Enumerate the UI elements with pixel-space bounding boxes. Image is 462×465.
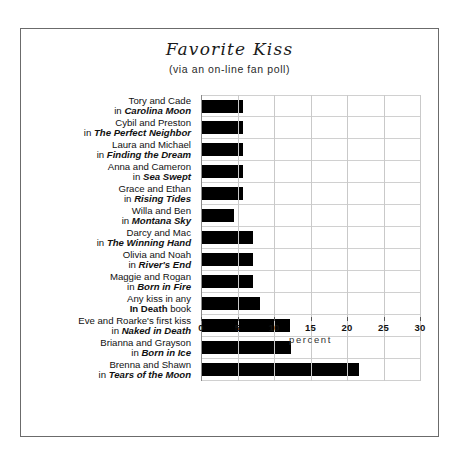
category-label-book: in The Perfect Neighbor xyxy=(84,128,191,138)
plot-row xyxy=(202,249,421,271)
book-title: River's End xyxy=(139,259,191,270)
plot-row xyxy=(202,227,421,249)
category-label: Laura and Michaelin Finding the Dream xyxy=(21,139,199,161)
bar xyxy=(202,165,243,178)
x-tick-label: 15 xyxy=(305,322,316,333)
label-preposition: in xyxy=(131,347,138,358)
category-label-book: in Finding the Dream xyxy=(97,150,191,160)
category-label: Cybil and Prestonin The Perfect Neighbor xyxy=(21,117,199,139)
category-label-book: in Carolina Moon xyxy=(114,106,191,116)
category-label-book: in River's End xyxy=(128,260,191,270)
category-label: Grace and Ethanin Rising Tides xyxy=(21,183,199,205)
book-title: Finding the Dream xyxy=(107,149,191,160)
plot-row xyxy=(202,359,421,381)
bar xyxy=(202,209,234,222)
bar xyxy=(202,231,253,244)
x-tick xyxy=(274,317,275,321)
x-tick-label: 25 xyxy=(378,322,389,333)
category-label: Tory and Cadein Carolina Moon xyxy=(21,95,199,117)
label-preposition: in xyxy=(133,171,140,182)
plot-row xyxy=(202,271,421,293)
x-tick-label: 30 xyxy=(414,322,425,333)
book-title: Born in Ice xyxy=(141,347,191,358)
chart-frame: Favorite Kiss (via an on-line fan poll) … xyxy=(20,28,439,437)
category-label-book: in Rising Tides xyxy=(124,194,191,204)
bar xyxy=(202,275,253,288)
category-label: Darcy and Macin The Winning Hand xyxy=(21,227,199,249)
plot-row xyxy=(202,139,421,161)
book-title: In Death xyxy=(130,303,168,314)
label-preposition: in xyxy=(122,215,129,226)
plot-row xyxy=(202,183,421,205)
category-label: Anna and Cameronin Sea Swept xyxy=(21,161,199,183)
book-title: Montana Sky xyxy=(132,215,191,226)
x-tick xyxy=(420,317,421,321)
category-label: Brianna and Graysonin Born in Ice xyxy=(21,337,199,359)
x-tick xyxy=(238,317,239,321)
label-preposition: in xyxy=(127,281,134,292)
bar xyxy=(202,187,243,200)
book-title: Naked in Death xyxy=(122,325,191,336)
category-label-book: in Montana Sky xyxy=(122,216,191,226)
book-title: Born in Fire xyxy=(137,281,191,292)
bar xyxy=(202,121,243,134)
category-label: Any kiss in anyIn Death book xyxy=(21,293,199,315)
bar xyxy=(202,297,260,310)
x-axis-label: percent xyxy=(201,334,420,345)
category-label-book: in Born in Fire xyxy=(127,282,191,292)
plot-wrapper: Tory and Cadein Carolina MoonCybil and P… xyxy=(21,95,440,407)
category-label-book: in The Winning Hand xyxy=(97,238,191,248)
page-title: Favorite Kiss xyxy=(21,39,438,59)
label-preposition: in xyxy=(114,105,121,116)
title-block: Favorite Kiss (via an on-line fan poll) xyxy=(21,39,438,75)
bar xyxy=(202,100,243,113)
book-title: Rising Tides xyxy=(134,193,191,204)
plot-row xyxy=(202,95,421,117)
x-tick xyxy=(311,317,312,321)
label-suffix: book xyxy=(168,303,191,314)
plot-row xyxy=(202,117,421,139)
bar xyxy=(202,143,243,156)
chart-subtitle: (via an on-line fan poll) xyxy=(21,63,438,75)
category-label: Maggie and Roganin Born in Fire xyxy=(21,271,199,293)
category-label: Eve and Roarke's first kissin Naked in D… xyxy=(21,315,199,337)
book-title: The Winning Hand xyxy=(107,237,191,248)
x-tick-label: 0 xyxy=(198,322,204,333)
book-title: Sea Swept xyxy=(143,171,191,182)
bar xyxy=(202,253,253,266)
category-label: Willa and Benin Montana Sky xyxy=(21,205,199,227)
category-label-book: in Naked in Death xyxy=(112,326,191,336)
category-label: Brenna and Shawnin Tears of the Moon xyxy=(21,359,199,381)
label-preposition: in xyxy=(124,193,131,204)
category-labels-column: Tory and Cadein Carolina MoonCybil and P… xyxy=(21,95,199,381)
chart-page: Favorite Kiss (via an on-line fan poll) … xyxy=(0,0,462,465)
book-title: Carolina Moon xyxy=(124,105,191,116)
x-tick-label: 5 xyxy=(235,322,241,333)
label-preposition: in xyxy=(97,237,104,248)
label-preposition: in xyxy=(84,127,91,138)
x-tick-label: 20 xyxy=(341,322,352,333)
plot-row xyxy=(202,205,421,227)
category-label-book: in Tears of the Moon xyxy=(99,370,191,380)
plot-row xyxy=(202,161,421,183)
category-label: Olivia and Noahin River's End xyxy=(21,249,199,271)
book-title: The Perfect Neighbor xyxy=(94,127,191,138)
category-label-book: in Born in Ice xyxy=(131,348,191,358)
category-label-book: In Death book xyxy=(130,304,191,314)
label-preposition: in xyxy=(128,259,135,270)
x-tick xyxy=(347,317,348,321)
category-label-book: in Sea Swept xyxy=(133,172,191,182)
label-preposition: in xyxy=(99,369,106,380)
x-tick xyxy=(201,317,202,321)
x-axis: percent 051015202530 xyxy=(201,317,420,347)
x-tick xyxy=(384,317,385,321)
book-title: Tears of the Moon xyxy=(109,369,191,380)
label-preposition: in xyxy=(112,325,119,336)
bar xyxy=(202,363,359,376)
x-tick-label: 10 xyxy=(268,322,279,333)
label-preposition: in xyxy=(97,149,104,160)
plot-row xyxy=(202,293,421,315)
